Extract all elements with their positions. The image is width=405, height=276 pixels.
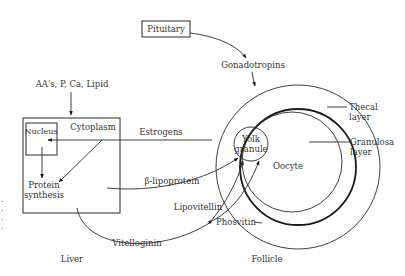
nucleus-label: Nucleus — [24, 127, 57, 136]
pituitary-label: Pituitary — [147, 24, 185, 34]
beta-lipoprotein-label: β-lipoprotein — [144, 176, 200, 186]
cytoplasm-to-protein-arrow — [59, 140, 102, 182]
vitelloginin-label: Vitelloginin — [111, 238, 162, 248]
liver-cell: Nucleus Cytoplasm Protein synthesis — [23, 118, 120, 213]
lipovitellin-label: Lipovitellin — [174, 202, 223, 212]
protein-synthesis-label-2: synthesis — [24, 190, 64, 200]
junction-dot — [208, 220, 211, 223]
yolk-granule-label-1: Yolk — [241, 134, 261, 144]
follicle-label: Follicle — [251, 254, 282, 264]
thecal-layer-label-1: Thecal — [349, 102, 378, 112]
thecal-layer-label-2: layer — [349, 112, 372, 122]
granulosa-layer-label-2: layer — [350, 147, 373, 157]
cytoplasm-label: Cytoplasm — [70, 122, 116, 132]
phosvitin-label: Phosvitin — [216, 217, 256, 227]
estrogens-label: Estrogens — [139, 127, 182, 137]
protein-synthesis-label-1: Protein — [28, 180, 60, 190]
edge-marks — [2, 201, 3, 229]
pituitary-to-gonadotropins-arrow — [190, 33, 246, 58]
yolk-granule-label-2: granule — [234, 144, 267, 154]
vitellogenesis-diagram: Pituitary Gonadotropins AA's, P, Ca, Lip… — [0, 0, 405, 276]
gonadotropins-label: Gonadotropins — [221, 60, 285, 70]
gonadotropins-to-follicle-arrow — [252, 72, 255, 86]
oocyte-label: Oocyte — [273, 161, 303, 171]
inputs-label: AA's, P, Ca, Lipid — [35, 79, 109, 89]
pituitary-node: Pituitary — [142, 21, 190, 37]
granulosa-layer-label-1: Granulosa — [350, 137, 394, 147]
liver-label: Liver — [61, 254, 84, 264]
lipovitellin-arrow — [210, 161, 243, 222]
